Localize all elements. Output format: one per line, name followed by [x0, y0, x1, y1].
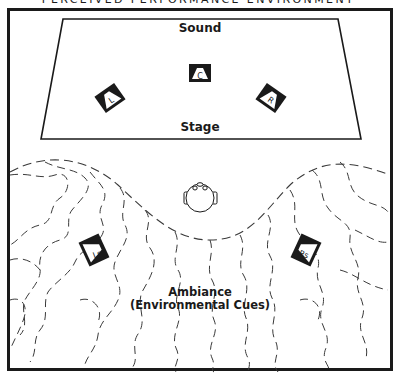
listener-head-icon — [184, 183, 217, 212]
diagram-canvas: C L R Ls Rs — [0, 0, 397, 376]
speaker-c-label: C — [197, 72, 203, 81]
ambiance-label-line2: (Environmental Cues) — [110, 299, 290, 312]
stage-label: Stage — [150, 120, 250, 134]
ambiance-label: Ambiance (Environmental Cues) — [110, 286, 290, 312]
sound-label: Sound — [150, 21, 250, 35]
